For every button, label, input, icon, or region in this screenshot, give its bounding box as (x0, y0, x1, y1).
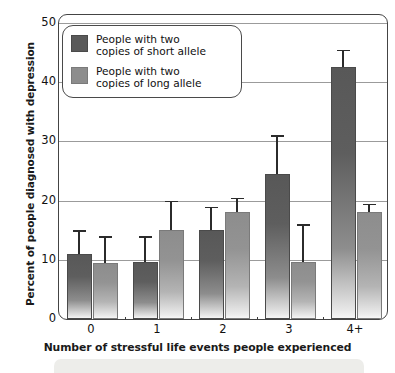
y-tick-mark-30 (58, 141, 59, 142)
error-bar-cap-short-1 (139, 236, 152, 237)
legend-label-short-allele: People with two copies of short allele (96, 33, 206, 58)
bar-long-allele-3 (291, 262, 316, 319)
error-bar-cap-long-1 (165, 201, 178, 202)
legend-item-long-allele: People with two copies of long allele (71, 65, 233, 90)
y-tick-mark-minor-35 (58, 112, 59, 113)
bar-long-allele-0 (93, 263, 118, 319)
y-tick-mark-minor-25 (58, 171, 59, 172)
error-bar-stem-short-2 (210, 207, 211, 231)
chart-legend: People with two copies of short allele P… (62, 25, 242, 98)
error-bar-cap-short-2 (205, 207, 218, 208)
y-tick-mark-40 (58, 82, 59, 83)
bar-short-allele-3 (265, 174, 290, 319)
legend-swatch-short-allele (71, 35, 88, 52)
error-bar-stem-short-1 (144, 236, 145, 261)
y-tick-label-20: 20 (22, 193, 56, 207)
y-tick-mark-0 (58, 319, 59, 320)
error-bar-stem-long-2 (236, 198, 237, 213)
bar-short-allele-4+ (331, 67, 356, 319)
x-axis-tick-labels: 01234+ (58, 322, 388, 342)
y-tick-label-50: 50 (22, 15, 56, 29)
x-tick-label-1: 1 (153, 322, 160, 336)
y-axis-tick-labels: 01020304050 (20, 0, 56, 367)
error-bar-stem-short-4+ (342, 50, 343, 68)
bar-long-allele-4+ (357, 212, 382, 319)
error-bar-cap-short-0 (73, 230, 86, 231)
y-tick-mark-minor-15 (58, 230, 59, 231)
y-tick-label-0: 0 (22, 311, 56, 325)
error-bar-cap-short-3 (271, 135, 284, 136)
bottom-caption-strip (54, 359, 364, 373)
y-tick-mark-minor-5 (58, 289, 59, 290)
y-tick-label-40: 40 (22, 74, 56, 88)
x-axis-title: Number of stressful life events people e… (0, 341, 395, 354)
x-tick-label-4+: 4+ (347, 322, 364, 336)
error-bar-stem-short-0 (78, 230, 79, 254)
y-tick-mark-50 (58, 23, 59, 24)
x-tick-mark-1 (125, 317, 126, 320)
error-bar-cap-long-0 (99, 236, 112, 237)
x-tick-label-2: 2 (219, 322, 226, 336)
bar-short-allele-2 (199, 230, 224, 319)
bar-short-allele-1 (133, 262, 158, 319)
bar-long-allele-1 (159, 230, 184, 319)
y-tick-mark-20 (58, 201, 59, 202)
error-bar-stem-long-3 (302, 224, 303, 261)
error-bar-stem-short-3 (276, 135, 277, 173)
error-bar-stem-long-1 (170, 201, 171, 231)
legend-swatch-long-allele (71, 67, 88, 84)
legend-label-long-allele: People with two copies of long allele (96, 65, 202, 90)
error-bar-cap-short-4+ (337, 50, 350, 51)
bar-short-allele-0 (67, 254, 92, 319)
x-tick-label-3: 3 (285, 322, 292, 336)
bar-long-allele-2 (225, 212, 250, 319)
error-bar-cap-long-3 (297, 224, 310, 225)
y-tick-mark-10 (58, 260, 59, 261)
error-bar-cap-long-4+ (363, 204, 376, 205)
y-tick-mark-minor-45 (58, 53, 59, 54)
y-tick-label-30: 30 (22, 133, 56, 147)
x-tick-mark-4 (323, 317, 324, 320)
gridline-50 (59, 23, 387, 24)
error-bar-stem-long-0 (104, 236, 105, 263)
x-tick-mark-3 (257, 317, 258, 320)
y-tick-label-10: 10 (22, 252, 56, 266)
x-tick-mark-2 (191, 317, 192, 320)
x-tick-label-0: 0 (87, 322, 94, 336)
error-bar-cap-long-2 (231, 198, 244, 199)
legend-item-short-allele: People with two copies of short allele (71, 33, 233, 58)
